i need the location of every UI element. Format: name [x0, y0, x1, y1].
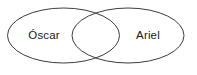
venn-diagram-canvas: Óscar Ariel: [0, 0, 197, 75]
venn-circle-right[interactable]: [72, 8, 184, 63]
venn-circle-left[interactable]: [8, 8, 120, 63]
venn-diagram-figure: Óscar Ariel: [0, 0, 197, 75]
venn-label-left: Óscar: [28, 29, 59, 41]
venn-label-right: Ariel: [136, 29, 160, 41]
